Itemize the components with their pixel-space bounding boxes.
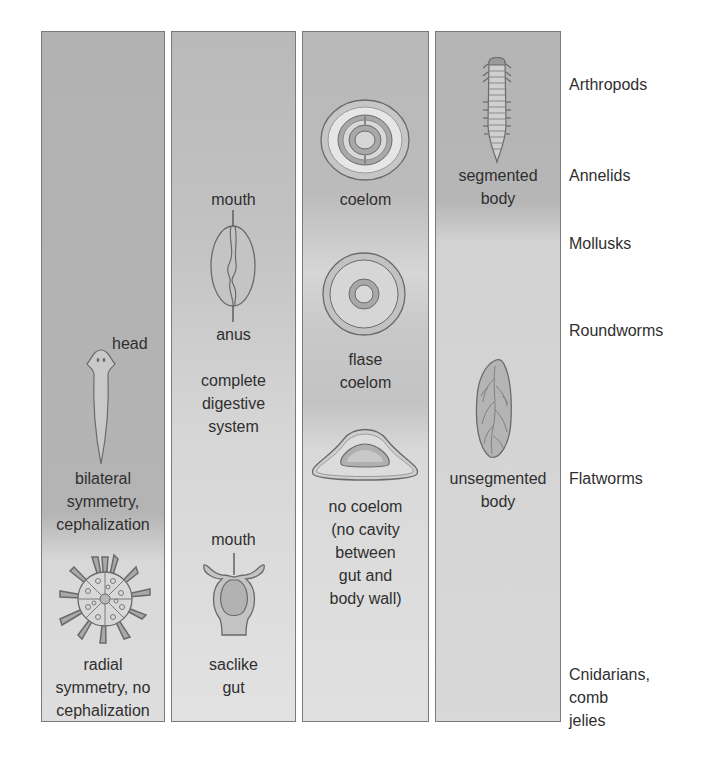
phylum-roundworms: Roundworms — [569, 319, 663, 342]
label-head: head — [112, 332, 172, 355]
phylum-cnidarians-comb-jellies: Cnidarians, comb jelies — [569, 663, 650, 732]
phylum-flatworms: Flatworms — [569, 467, 643, 490]
label-coelom: coelom — [302, 188, 429, 211]
phylum-mollusks: Mollusks — [569, 232, 631, 255]
radial-organism-icon — [58, 553, 152, 645]
label-bilateral-symmetry: bilateral symmetry, cephalization — [41, 467, 165, 536]
label-false-coelom: flase coelom — [302, 348, 429, 394]
no-coelom-cross-section-icon — [309, 422, 421, 484]
coelom-cross-section-icon — [319, 98, 411, 182]
label-saclike-gut: saclike gut — [171, 653, 296, 699]
label-unsegmented-body: unsegmented body — [433, 467, 563, 513]
saclike-gut-icon — [200, 553, 268, 639]
phylum-annelids: Annelids — [569, 164, 630, 187]
flatworm-icon — [84, 348, 118, 468]
label-mouth-saclike: mouth — [171, 528, 296, 551]
label-anus: anus — [171, 323, 296, 346]
label-no-coelom: no coelom (no cavity between gut and bod… — [302, 495, 429, 610]
phylum-arthropods: Arthropods — [569, 73, 647, 96]
label-mouth-complete: mouth — [171, 188, 296, 211]
unsegmented-body-icon — [474, 358, 514, 460]
false-coelom-cross-section-icon — [321, 251, 407, 337]
segmented-worm-icon — [482, 54, 512, 164]
label-radial-symmetry: radial symmetry, no cephalization — [41, 653, 165, 722]
label-complete-digestive-system: complete digestive system — [171, 369, 296, 438]
complete-gut-icon — [208, 210, 258, 322]
label-segmented-body: segmented body — [435, 164, 561, 210]
